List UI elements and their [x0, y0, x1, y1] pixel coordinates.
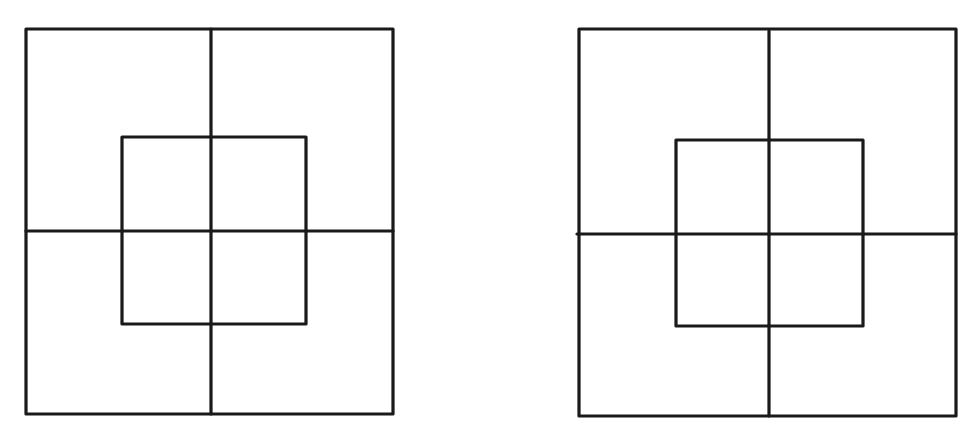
diagram-canvas: [0, 0, 972, 433]
figure-left: [26, 29, 393, 414]
figure-right: [577, 29, 956, 416]
